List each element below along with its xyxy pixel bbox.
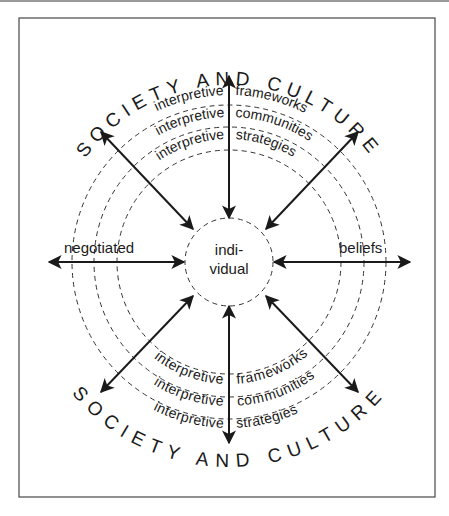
arrow-bottom-left — [101, 296, 193, 392]
beliefs-label: beliefs — [339, 239, 382, 256]
individual-label-line1: indi- — [215, 241, 243, 258]
ring-bottom-1-right: frameworks — [236, 345, 311, 387]
negotiated-label: negotiated — [64, 239, 134, 256]
society-culture-diagram: SOCIETY AND CULTURE SOCIETY AND CULTURE … — [0, 0, 449, 516]
individual-label-line2: vidual — [209, 260, 248, 277]
